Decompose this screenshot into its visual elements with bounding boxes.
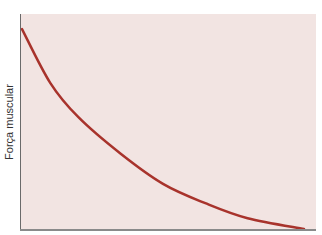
y-axis <box>20 14 21 230</box>
chart-curve <box>0 0 322 235</box>
x-axis <box>20 229 316 231</box>
